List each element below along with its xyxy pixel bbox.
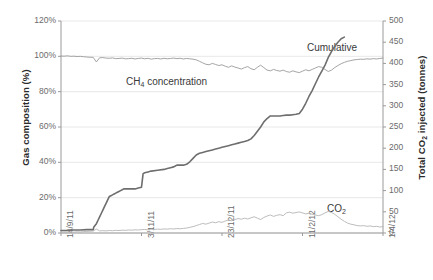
series-line-cumulative <box>61 37 344 230</box>
data-series <box>61 37 383 232</box>
chart-figure: Gas composition (%) Total CO2 injected (… <box>0 0 433 280</box>
plot-area <box>0 0 433 280</box>
series-line-co2 <box>61 211 383 232</box>
series-line-ch4-concentration <box>61 56 383 73</box>
gridlines <box>61 21 383 233</box>
